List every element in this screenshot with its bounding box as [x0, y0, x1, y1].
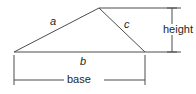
diagram-canvas: [0, 0, 196, 94]
height-dimension-label: height: [162, 24, 194, 35]
side-label-a: a: [50, 16, 56, 27]
triangle-diagram: a b c base height: [0, 0, 196, 94]
side-label-c: c: [124, 19, 130, 30]
side-label-b: b: [80, 56, 86, 67]
base-dimension-label: base: [64, 74, 94, 85]
